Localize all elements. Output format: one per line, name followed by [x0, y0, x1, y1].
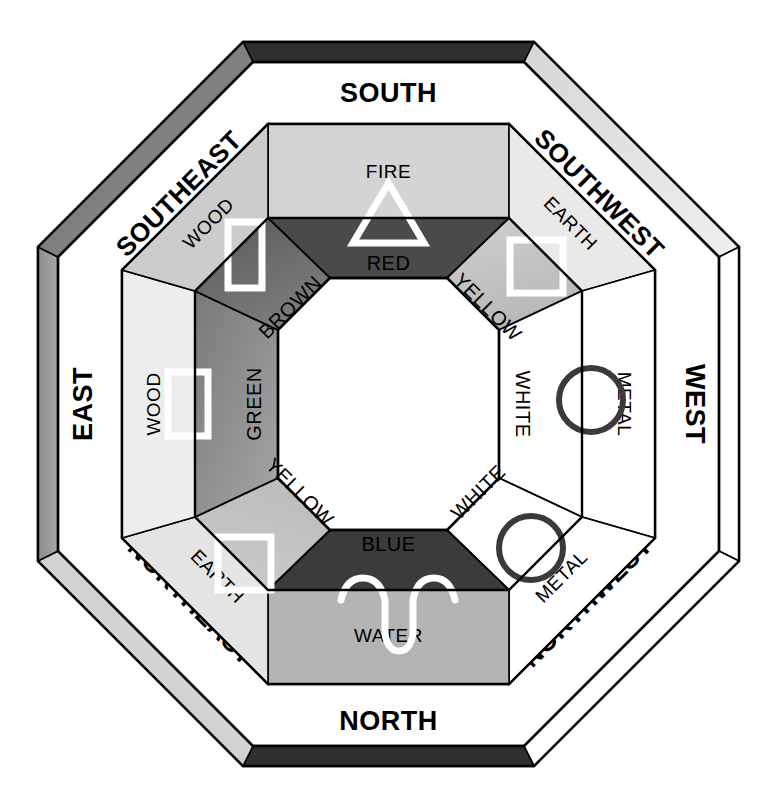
element-label-wood-east: WOOD [143, 372, 164, 435]
direction-label-south: SOUTH [340, 78, 437, 108]
band-east [38, 247, 58, 561]
band-south [243, 42, 534, 62]
direction-label-west: WEST [680, 364, 710, 444]
color-label-blue: BLUE [361, 533, 415, 555]
color-label-red: RED [367, 252, 411, 274]
band-west [719, 247, 739, 561]
direction-label-east: EAST [68, 367, 98, 441]
color-label-green: GREEN [243, 367, 265, 441]
direction-label-north: NORTH [339, 706, 438, 736]
bagua-svg: SOUTH NORTH EAST WEST SOUTHEAST SOUTHWES… [0, 0, 777, 808]
color-label-white-west: WHITE [512, 371, 534, 438]
bagua-diagram: SOUTH NORTH EAST WEST SOUTHEAST SOUTHWES… [0, 0, 777, 808]
band-north [243, 746, 534, 766]
